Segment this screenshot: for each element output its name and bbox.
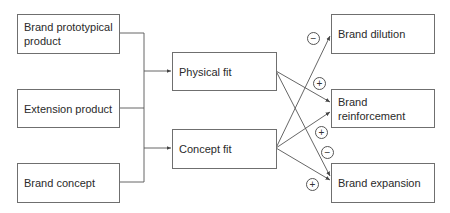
- box-label: Brand concept: [24, 176, 95, 190]
- box-brand-expansion: Brand expansion: [331, 163, 435, 203]
- box-label: Physical fit: [179, 65, 232, 79]
- minus-sign-icon: −: [321, 146, 334, 159]
- minus-sign-icon: −: [307, 32, 320, 45]
- box-label: Brand prototypical product: [24, 20, 114, 48]
- plus-sign-icon: +: [306, 178, 319, 191]
- box-label: Concept fit: [179, 142, 232, 156]
- box-label: Brand expansion: [338, 176, 421, 190]
- box-label: Brand dilution: [338, 27, 405, 41]
- box-brand-prototypical-product: Brand prototypical product: [17, 14, 120, 54]
- plus-sign-icon: +: [313, 77, 326, 90]
- box-brand-dilution: Brand dilution: [331, 14, 435, 54]
- box-brand-concept: Brand concept: [17, 163, 120, 203]
- box-extension-product: Extension product: [17, 89, 120, 128]
- plus-sign-icon: +: [315, 126, 328, 139]
- box-label: Extension product: [24, 102, 112, 116]
- box-label: Brand reinforcement: [338, 95, 418, 123]
- box-concept-fit: Concept fit: [172, 129, 277, 169]
- box-physical-fit: Physical fit: [172, 52, 277, 91]
- box-brand-reinforcement: Brand reinforcement: [331, 89, 435, 128]
